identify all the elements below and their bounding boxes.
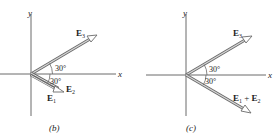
label-e1-plus-e2: E1 + E2: [233, 93, 261, 104]
panel-c: y x 30° 30° E3 E1 + E2 (c): [146, 8, 272, 133]
x-axis-label: x: [267, 70, 272, 80]
angle-label-lower: 30°: [50, 77, 61, 86]
label-e3: E3: [76, 28, 85, 39]
y-axis-label: y: [182, 8, 187, 18]
caption-b: (b): [49, 123, 60, 133]
angle-label-upper: 30°: [209, 65, 220, 74]
angle-label-upper: 30°: [55, 64, 66, 73]
angle-label-lower: 30°: [205, 77, 216, 86]
angle-arc-upper: [204, 65, 207, 76]
x-axis-label: x: [117, 69, 122, 79]
angle-arc-upper: [50, 63, 53, 74]
y-axis-label: y: [27, 8, 32, 18]
panel-b: y x 30° 30° E3 E2 E1 (b): [0, 8, 122, 133]
arrowhead-icon: [241, 105, 251, 113]
label-e2: E2: [66, 84, 75, 95]
label-e3: E3: [233, 28, 242, 39]
caption-c: (c): [186, 123, 196, 133]
label-e1: E1: [47, 93, 56, 104]
